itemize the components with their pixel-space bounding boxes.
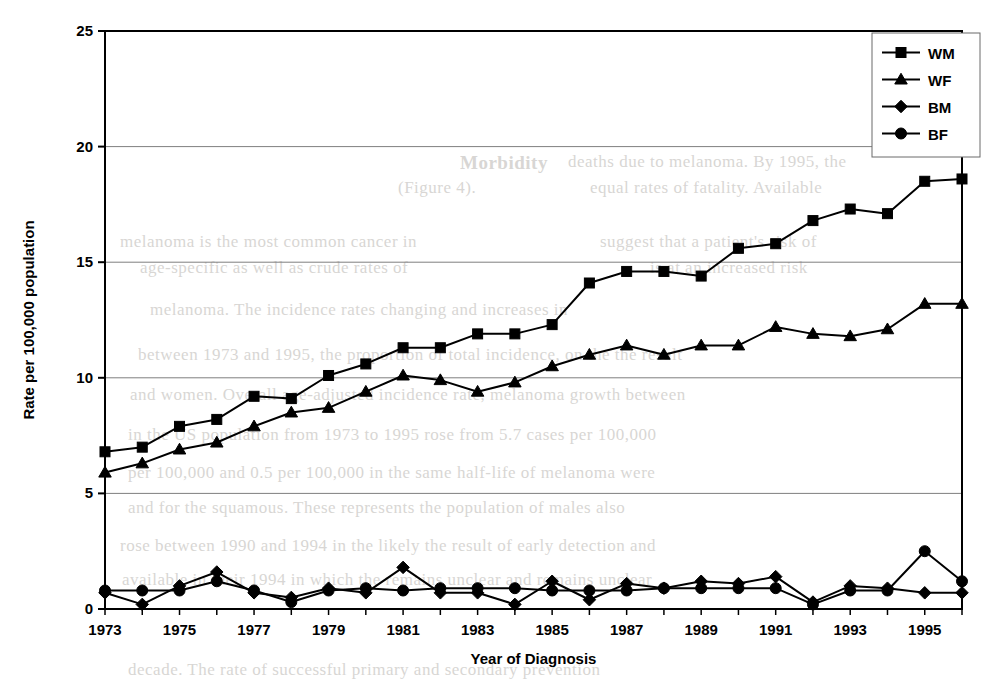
plot-frame bbox=[105, 31, 962, 609]
legend-label-wf[interactable]: WF bbox=[928, 72, 951, 89]
series-bf bbox=[100, 546, 968, 610]
series-line bbox=[105, 551, 962, 604]
triangle-marker bbox=[620, 339, 633, 350]
x-tick-label: 1979 bbox=[312, 621, 345, 638]
square-marker bbox=[100, 447, 110, 457]
x-tick-label: 1985 bbox=[535, 621, 568, 638]
circle-marker bbox=[919, 546, 930, 557]
circle-marker bbox=[211, 576, 222, 587]
x-tick-label: 1983 bbox=[461, 621, 494, 638]
square-marker bbox=[361, 359, 371, 369]
square-marker bbox=[398, 343, 408, 353]
legend-label-bm[interactable]: BM bbox=[928, 99, 951, 116]
square-marker bbox=[622, 266, 632, 276]
circle-marker bbox=[807, 599, 818, 610]
circle-marker bbox=[472, 583, 483, 594]
x-tick-label: 1991 bbox=[759, 621, 792, 638]
series-bm bbox=[99, 561, 969, 610]
circle-marker bbox=[323, 585, 334, 596]
circle-marker bbox=[882, 585, 893, 596]
series-wf bbox=[99, 298, 969, 478]
circle-marker bbox=[957, 576, 968, 587]
square-marker bbox=[957, 174, 967, 184]
circle-marker bbox=[509, 583, 520, 594]
circle-marker bbox=[770, 583, 781, 594]
circle-marker bbox=[100, 585, 111, 596]
square-marker bbox=[696, 271, 706, 281]
series-line bbox=[105, 179, 962, 452]
square-marker bbox=[324, 370, 334, 380]
y-tick-label: 15 bbox=[76, 253, 93, 270]
x-tick-label: 1987 bbox=[610, 621, 643, 638]
triangle-marker bbox=[881, 323, 894, 334]
square-marker bbox=[584, 278, 594, 288]
y-tick-label: 10 bbox=[76, 369, 93, 386]
circle-marker bbox=[137, 585, 148, 596]
circle-marker bbox=[733, 583, 744, 594]
y-tick-label: 5 bbox=[85, 484, 93, 501]
square-marker bbox=[808, 216, 818, 226]
legend[interactable]: WMWFBMBF bbox=[872, 33, 980, 157]
legend-label-bf[interactable]: BF bbox=[928, 126, 948, 143]
axis-ticks bbox=[98, 31, 962, 615]
circle-marker bbox=[360, 583, 371, 594]
circle-marker bbox=[174, 585, 185, 596]
circle-marker bbox=[435, 583, 446, 594]
square-marker bbox=[473, 329, 483, 339]
circle-marker bbox=[584, 585, 595, 596]
circle-marker bbox=[896, 128, 907, 139]
y-axis-title: Rate per 100,000 population bbox=[20, 220, 37, 419]
square-marker bbox=[845, 204, 855, 214]
x-tick-label: 1993 bbox=[834, 621, 867, 638]
circle-marker bbox=[658, 583, 669, 594]
square-marker bbox=[896, 48, 906, 58]
square-marker bbox=[435, 343, 445, 353]
square-marker bbox=[659, 266, 669, 276]
diamond-marker bbox=[918, 587, 931, 600]
x-tick-label: 1977 bbox=[237, 621, 270, 638]
triangle-marker bbox=[397, 369, 410, 380]
square-marker bbox=[249, 391, 259, 401]
legend-label-wm[interactable]: WM bbox=[928, 45, 955, 62]
circle-marker bbox=[621, 585, 632, 596]
data-series bbox=[99, 174, 969, 611]
circle-marker bbox=[547, 585, 558, 596]
diamond-marker bbox=[956, 587, 969, 600]
x-tick-label: 1995 bbox=[908, 621, 941, 638]
x-tick-label: 1975 bbox=[163, 621, 196, 638]
square-marker bbox=[137, 442, 147, 452]
triangle-marker bbox=[769, 321, 782, 332]
square-marker bbox=[175, 421, 185, 431]
axes bbox=[105, 31, 962, 609]
y-tick-label: 25 bbox=[76, 22, 93, 39]
gridlines bbox=[105, 147, 962, 494]
square-marker bbox=[286, 394, 296, 404]
y-tick-label: 0 bbox=[85, 600, 93, 617]
x-tick-label: 1981 bbox=[386, 621, 419, 638]
square-marker bbox=[882, 209, 892, 219]
x-axis-title: Year of Diagnosis bbox=[471, 650, 597, 667]
circle-marker bbox=[696, 583, 707, 594]
square-marker bbox=[771, 239, 781, 249]
x-axis-tick-labels: 1973197519771979198119831985198719891991… bbox=[88, 621, 941, 638]
square-marker bbox=[547, 320, 557, 330]
square-marker bbox=[920, 176, 930, 186]
square-marker bbox=[733, 243, 743, 253]
x-tick-label: 1973 bbox=[88, 621, 121, 638]
diamond-marker bbox=[769, 570, 782, 583]
circle-marker bbox=[845, 585, 856, 596]
x-tick-label: 1989 bbox=[684, 621, 717, 638]
circle-marker bbox=[398, 585, 409, 596]
circle-marker bbox=[249, 585, 260, 596]
square-marker bbox=[510, 329, 520, 339]
diamond-marker bbox=[397, 561, 410, 574]
square-marker bbox=[212, 414, 222, 424]
y-axis-tick-labels: 0510152025 bbox=[76, 22, 93, 617]
series-wm bbox=[100, 174, 967, 457]
y-tick-label: 20 bbox=[76, 138, 93, 155]
circle-marker bbox=[286, 597, 297, 608]
